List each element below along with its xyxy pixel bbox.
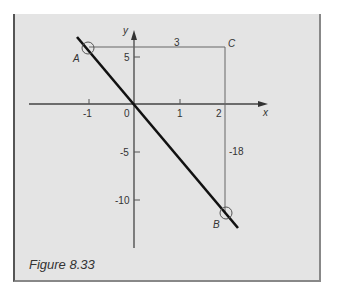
y-tick-label-5: 5 [124,52,130,63]
figure-caption: Figure 8.33 [29,257,95,272]
vertical-rise-label: -18 [229,146,244,157]
y-tick-label-neg5: -5 [120,147,129,158]
y-axis-label: y [122,25,129,36]
x-axis-label: x [262,107,269,118]
horizontal-run-label: 3 [174,37,180,48]
point-b-label: B [213,219,220,230]
x-tick-label-0: 0 [124,108,130,119]
line-ab [77,37,238,228]
x-tick-label-2: 2 [216,108,222,119]
point-c-label: C [228,38,236,49]
point-a-marker [82,42,94,54]
x-tick-label-1: 1 [177,108,183,119]
point-a-label: A [72,53,80,64]
figure-svg: x y -1 0 1 2 5 -5 -10 A B C 3 -18 [0,0,337,296]
y-tick-label-neg10: -10 [115,195,130,206]
y-axis-arrow-icon [131,30,137,40]
x-tick-label-neg1: -1 [83,108,92,119]
